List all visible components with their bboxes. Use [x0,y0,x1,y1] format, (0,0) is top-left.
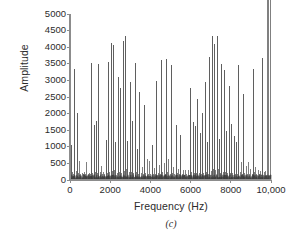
spectrum-spikes [71,0,270,180]
y-axis-tick-labels: 0500100015002000250030003500400045005000 [16,0,66,239]
y-tick-label: 2000 [22,107,66,118]
y-tick-label: 3500 [22,57,66,68]
y-tick-label: 1500 [22,124,66,135]
figure-spectrum-plot: Amplitude 050010001500200025003000350040… [0,0,288,239]
x-axis-title: Frequency (Hz) [70,200,272,212]
y-tick-label: 3000 [22,74,66,85]
x-tick-label: 4000 [140,184,161,195]
y-tick-label: 4500 [22,24,66,35]
y-tick-label: 2500 [22,91,66,102]
axis-lines [70,14,271,180]
y-tick-label: 5000 [22,8,66,19]
x-tick-label: 8000 [220,184,241,195]
y-tick-label: 500 [22,157,66,168]
x-tick-label: 10,000 [256,184,285,195]
x-tick-label: 0 [67,184,72,195]
y-tick-label: 4000 [22,41,66,52]
x-tick-label: 2000 [100,184,121,195]
y-tick-label: 1000 [22,140,66,151]
y-tick-label: 0 [22,174,66,185]
figure-caption: (c) [70,218,272,229]
x-tick-label: 6000 [180,184,201,195]
